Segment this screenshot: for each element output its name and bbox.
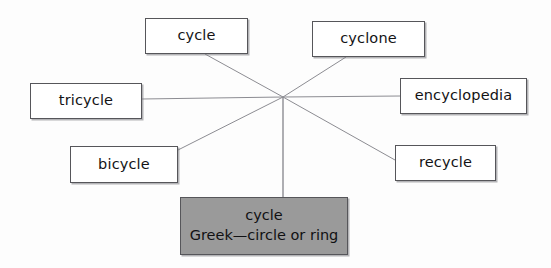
node-label-cycle: cycle xyxy=(177,28,215,44)
node-label-tricycle: tricycle xyxy=(59,93,113,109)
connector-bicycle xyxy=(178,97,283,150)
connector-cycle xyxy=(205,54,283,97)
node-cyclone[interactable]: cyclone xyxy=(312,21,425,57)
root-label-origin: Greek—circle or ring xyxy=(190,226,339,246)
connector-recycle xyxy=(283,97,395,160)
node-cycle[interactable]: cycle xyxy=(145,18,248,54)
node-tricycle[interactable]: tricycle xyxy=(30,83,142,119)
node-label-bicycle: bicycle xyxy=(98,157,150,173)
node-recycle[interactable]: recycle xyxy=(395,145,496,181)
node-label-encyclopedia: encyclopedia xyxy=(415,88,513,104)
node-encyclopedia[interactable]: encyclopedia xyxy=(400,78,527,114)
root-label-word: cycle xyxy=(245,206,282,226)
node-bicycle[interactable]: bicycle xyxy=(70,146,178,183)
node-label-recycle: recycle xyxy=(419,155,472,171)
root-node-cycle-origin[interactable]: cycle Greek—circle or ring xyxy=(180,197,348,255)
diagram-canvas: cycle cyclone tricycle encyclopedia bicy… xyxy=(0,0,551,268)
node-label-cyclone: cyclone xyxy=(340,31,397,47)
connector-encyclopedia xyxy=(283,96,400,97)
connector-cyclone xyxy=(283,57,346,97)
connector-tricycle xyxy=(142,97,283,99)
